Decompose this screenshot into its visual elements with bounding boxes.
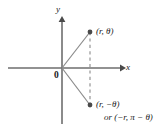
x-axis-label: x <box>126 63 130 72</box>
radius-line-lower <box>62 68 90 105</box>
origin-label: 0 <box>54 71 59 81</box>
lower-point-alt-label: or (−r, π − θ) <box>104 113 153 122</box>
polar-coordinate-figure: y x 0 (r, θ) (r, −θ) or (−r, π − θ) <box>0 0 164 136</box>
radius-line-upper <box>62 32 90 68</box>
y-axis-label: y <box>56 5 60 14</box>
upper-point-marker <box>88 30 93 35</box>
lower-point-marker <box>88 103 93 108</box>
lower-point-label: (r, −θ) <box>96 100 120 109</box>
y-axis-arrowhead <box>59 16 66 22</box>
upper-point-label: (r, θ) <box>96 27 113 36</box>
